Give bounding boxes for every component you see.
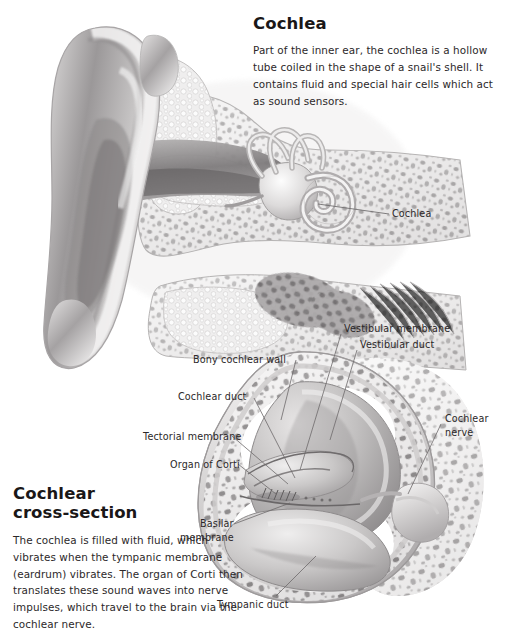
label-cochlear-nerve: Cochlear nerve: [445, 412, 489, 439]
label-organ-of-corti: Organ of Corti: [170, 458, 240, 472]
cochlea-info-panel: Cochlea Part of the inner ear, the cochl…: [253, 14, 497, 110]
label-basilar-membrane: Basilar membrane: [180, 517, 234, 544]
cross-section-description: The cochlea is filled with fluid, which …: [13, 532, 243, 633]
label-tympanic-duct: Tympanic duct: [217, 598, 289, 612]
cochlea-heading: Cochlea: [253, 14, 497, 33]
label-vestibular-duct: Vestibular duct: [360, 338, 434, 352]
label-vestibular-membrane: Vestibular membrane: [344, 322, 450, 336]
cochlea-description: Part of the inner ear, the cochlea is a …: [253, 42, 497, 109]
label-cochlea: Cochlea: [392, 207, 431, 221]
cross-section-info-panel: Cochlear cross-section The cochlea is fi…: [13, 484, 243, 633]
label-cochlear-duct: Cochlear duct: [178, 390, 247, 404]
label-tectorial-membrane: Tectorial membrane: [143, 430, 241, 444]
illustration-page: Cochlea Part of the inner ear, the cochl…: [0, 0, 507, 638]
label-bony-cochlear-wall: Bony cochlear wall: [193, 353, 286, 367]
